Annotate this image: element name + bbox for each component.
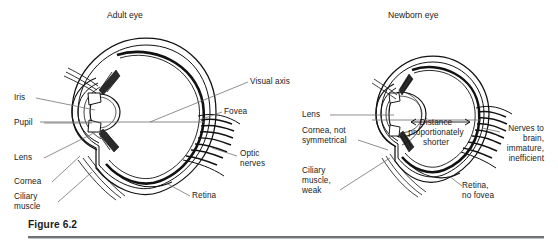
figure-caption: Figure 6.2: [28, 219, 77, 230]
label-nerves-line3: immature,: [466, 144, 544, 153]
label-ciliary-newborn-line2: muscle,: [302, 176, 331, 185]
label-nerves-line4: inefficient: [466, 154, 544, 163]
label-ciliary-muscle-adult-line1: Ciliary: [14, 192, 37, 201]
adult-anterior-strands: [64, 68, 98, 93]
adult-ciliary-wedge-top: [99, 70, 120, 95]
adult-eye-title: Adult eye: [107, 10, 143, 20]
label-lens-adult: Lens: [14, 153, 32, 162]
adult-retina-layer: [106, 52, 204, 184]
label-fovea: Fovea: [224, 107, 247, 116]
label-nerves-line1: Nerves to: [466, 124, 544, 133]
leader-ciliary-newborn: [340, 158, 390, 190]
leader-cornea-newborn: [358, 140, 388, 150]
adult-eye-drawing: [40, 38, 240, 200]
label-distance-line1: Distance: [398, 118, 474, 127]
adult-retina-inner-edge: [109, 55, 200, 178]
caption-rule-shadow: [28, 238, 544, 239]
label-cornea-newborn-line1: Cornea, not: [302, 126, 346, 135]
leader-iris: [36, 98, 95, 110]
label-retina-newborn-line2: no fovea: [462, 191, 494, 200]
label-optic-nerves-line2: nerves: [240, 159, 265, 168]
label-ciliary-newborn-line1: Ciliary: [302, 166, 325, 175]
newborn-eye-title: Newborn eye: [388, 10, 439, 20]
label-lens-newborn: Lens: [302, 110, 320, 119]
newborn-posterior-wall-line: [404, 159, 460, 178]
figure-6-2: Adult eye Newborn eye Iris Pupil Lens Co…: [0, 0, 558, 248]
label-cornea-adult: Cornea: [14, 177, 41, 186]
leader-cornea-adult: [52, 156, 80, 182]
newborn-ciliary-wedge-top: [399, 74, 413, 95]
label-retina-adult: Retina: [192, 191, 216, 200]
label-optic-nerves-line1: Optic: [240, 149, 260, 158]
label-visual-axis: Visual axis: [250, 77, 290, 86]
leader-ciliary-adult: [58, 172, 92, 202]
label-ciliary-newborn-line3: weak: [302, 186, 321, 195]
leader-retina-newborn: [449, 176, 462, 186]
label-nerves-line2: brain,: [466, 134, 544, 143]
label-retina-newborn-line1: Retina,: [462, 181, 489, 190]
leader-retina-adult: [166, 183, 190, 196]
label-pupil: Pupil: [14, 118, 33, 127]
label-ciliary-muscle-adult-line2: muscle: [14, 202, 40, 211]
label-cornea-newborn-line2: symmetrical: [302, 136, 347, 145]
label-iris: Iris: [14, 93, 25, 102]
